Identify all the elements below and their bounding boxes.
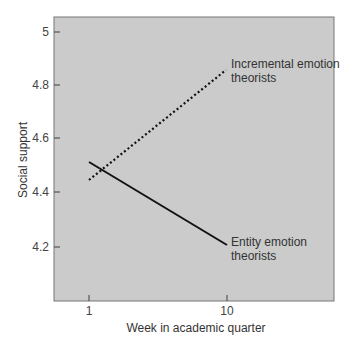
y-tick-label: 4.2 xyxy=(32,240,49,254)
svg-text:Incremental emotion: Incremental emotion xyxy=(231,57,340,71)
y-tick-label: 5 xyxy=(42,25,49,39)
x-tick-label: 10 xyxy=(220,304,234,318)
x-tick-label: 1 xyxy=(86,304,93,318)
y-axis-title: Social support xyxy=(16,121,30,198)
svg-text:theorists: theorists xyxy=(231,249,276,263)
svg-text:theorists: theorists xyxy=(231,71,276,85)
line-chart: 5 4.8 4.6 4.4 4.2 Social support 1 10 We… xyxy=(0,0,348,344)
y-tick-label: 4.6 xyxy=(32,131,49,145)
x-axis-title: Week in academic quarter xyxy=(126,321,265,335)
y-tick-label: 4.8 xyxy=(32,78,49,92)
svg-text:Entity emotion: Entity emotion xyxy=(231,235,307,249)
y-axis: 5 4.8 4.6 4.4 4.2 Social support xyxy=(16,25,60,254)
y-tick-label: 4.4 xyxy=(32,185,49,199)
